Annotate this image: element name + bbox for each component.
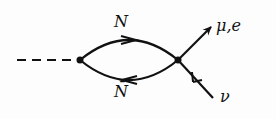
label-n-bar: N̄ [114,84,128,100]
label-n: N [114,14,128,30]
upper-fermion-line [80,40,178,60]
lower-fermion-line [80,60,178,80]
label-mu-e: μ,e [216,18,241,34]
neutrino-line [178,60,213,98]
outgoing-lepton-line [178,27,211,60]
neutrino-arrow-icon [192,72,202,82]
feynman-diagram: N N̄ μ,e ν [0,0,276,119]
label-nu: ν [220,89,230,105]
